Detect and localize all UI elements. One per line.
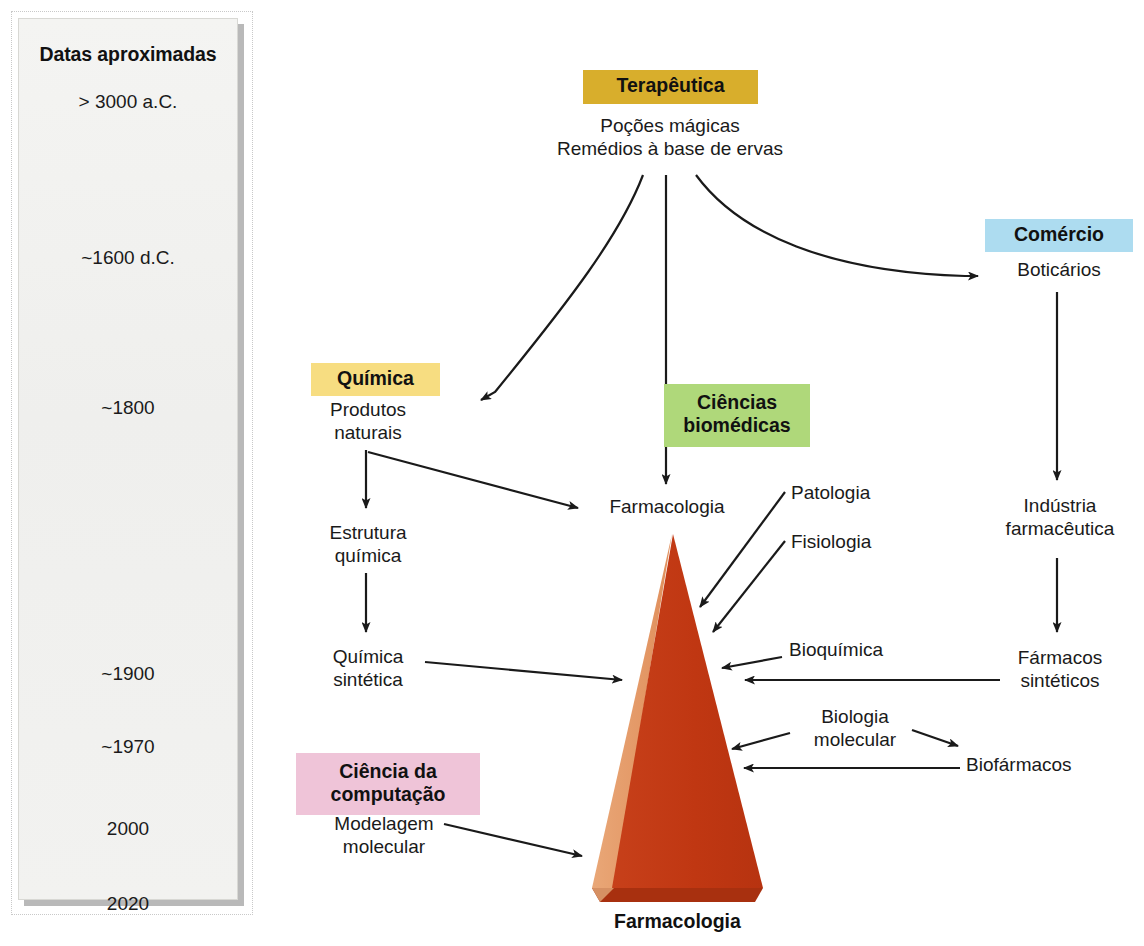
node-label-patologia: Patologia: [791, 482, 870, 503]
node-biofarmacos: Biofármacos: [966, 753, 1108, 776]
node-quimica-sintetica: Químicasintética: [313, 645, 423, 691]
node-label-farmacos-sinteticos: Fármacossintéticos: [1018, 647, 1102, 691]
node-biologia-molecular: Biologiamolecular: [797, 705, 913, 751]
category-box-comercio[interactable]: Comércio: [985, 219, 1133, 252]
arrow-biologia-molecular-to-pyramid: [732, 733, 790, 749]
pyramid-shape: [592, 534, 763, 902]
category-label-terapeutica: Terapêutica: [616, 74, 724, 96]
category-box-terapeutica[interactable]: Terapêutica: [583, 70, 758, 104]
node-fisiologia: Fisiologia: [791, 530, 899, 553]
category-box-ciencias-biomedicas[interactable]: Ciênciasbiomédicas: [664, 384, 810, 447]
node-label-modelagem-molecular: Modelagemmolecular: [334, 813, 433, 857]
timeline-date-4: ~1970: [19, 736, 237, 758]
category-label-quimica: Química: [337, 367, 414, 389]
category-label-ciencias-biomedicas: Ciênciasbiomédicas: [683, 391, 790, 436]
node-boticarios: Boticários: [1000, 258, 1118, 281]
node-label-biofarmacos: Biofármacos: [966, 754, 1072, 775]
node-bioquimica: Bioquímica: [789, 638, 915, 661]
category-box-quimica[interactable]: Química: [311, 363, 440, 396]
arrow-modelagem-to-pyramid: [444, 824, 582, 856]
category-label-comercio: Comércio: [1014, 223, 1104, 245]
node-label-produtos-naturais: Produtosnaturais: [330, 399, 406, 443]
arrow-quimica-sintetica-to-pyramid: [425, 662, 622, 680]
pyramid-label: Farmacologia: [595, 910, 760, 933]
timeline-date-3: ~1900: [19, 663, 237, 685]
node-label-industria-farmaceutica: Indústriafarmacêutica: [1006, 495, 1115, 539]
node-label-quimica-sintetica: Químicasintética: [333, 646, 404, 690]
node-industria-farmaceutica: Indústriafarmacêutica: [998, 494, 1122, 540]
node-label-bioquimica: Bioquímica: [789, 639, 883, 660]
node-patologia: Patologia: [791, 481, 901, 504]
arrow-fisiologia-to-pyramid: [713, 541, 785, 632]
node-modelagem-molecular: Modelagemmolecular: [318, 812, 450, 858]
node-estrutura-quimica: Estruturaquímica: [313, 521, 423, 567]
category-label-ciencia-computacao: Ciência dacomputação: [331, 760, 446, 805]
timeline-date-0: > 3000 a.C.: [19, 91, 237, 113]
arrow-bioquimica-to-pyramid: [722, 657, 782, 668]
node-produtos-naturais: Produtosnaturais: [312, 398, 424, 444]
node-label-fisiologia: Fisiologia: [791, 531, 871, 552]
node-pocoes-magicas: Poções mágicasRemédios à base de ervas: [538, 114, 802, 160]
arrow-terapeutica-to-comercio: [696, 175, 978, 276]
timeline-date-2: ~1800: [19, 397, 237, 419]
timeline-date-5: 2000: [19, 818, 237, 840]
timeline-title: Datas aproximadas: [19, 43, 237, 66]
node-label-pocoes-magicas: Poções mágicasRemédios à base de ervas: [557, 115, 783, 159]
node-label-boticarios: Boticários: [1017, 259, 1100, 280]
timeline-panel: Datas aproximadas > 3000 a.C. ~1600 d.C.…: [18, 18, 238, 900]
timeline-date-1: ~1600 d.C.: [19, 247, 237, 269]
arrow-terapeutica-to-quimica: [481, 175, 643, 400]
node-label-farmacologia: Farmacologia: [609, 496, 724, 517]
arrow-biologia-to-biofarmacos: [912, 730, 958, 746]
node-label-estrutura-quimica: Estruturaquímica: [329, 522, 406, 566]
timeline-date-6: 2020: [19, 893, 237, 915]
category-box-ciencia-computacao[interactable]: Ciência dacomputação: [296, 753, 480, 815]
node-farmacos-sinteticos: Fármacossintéticos: [1005, 646, 1115, 692]
arrow-produtos-to-farmacologia: [368, 452, 578, 508]
node-label-biologia-molecular: Biologiamolecular: [814, 706, 896, 750]
node-farmacologia: Farmacologia: [593, 495, 741, 518]
